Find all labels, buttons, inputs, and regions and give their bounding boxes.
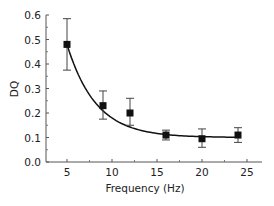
y-tick-label: 0.5 [24,34,41,46]
y-tick-label: 0.6 [24,9,41,21]
x-tick-label: 10 [105,166,118,178]
y-tick-label: 0.3 [24,83,41,95]
x-tick-label: 15 [150,166,163,178]
y-tick-label: 0.4 [24,58,41,70]
dq-frequency-chart: 0.00.10.20.30.40.50.6510152025 Frequency… [0,0,274,206]
data-point [126,98,134,125]
x-axis-label: Frequency (Hz) [105,182,184,194]
data-point [63,19,71,70]
axes: 0.00.10.20.30.40.50.6510152025 [24,9,262,178]
data-point [234,128,242,143]
y-axis-label: DQ [8,81,20,97]
data-point [198,129,206,147]
fit-curve [67,44,238,137]
x-tick-label: 25 [240,166,253,178]
x-tick-label: 20 [195,166,208,178]
data-points [63,19,242,148]
y-tick-label: 0.0 [24,156,41,168]
x-tick-label: 5 [64,166,71,178]
data-point [162,130,170,140]
y-tick-label: 0.2 [24,107,41,119]
y-tick-label: 0.1 [24,132,41,144]
data-point [99,91,107,119]
